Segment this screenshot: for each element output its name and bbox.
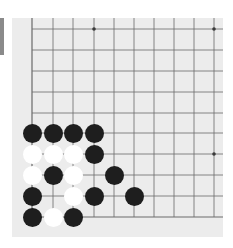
black-stone[interactable] bbox=[64, 208, 83, 227]
black-stone[interactable] bbox=[64, 124, 83, 143]
black-stone[interactable] bbox=[85, 145, 104, 164]
black-stone[interactable] bbox=[23, 124, 42, 143]
black-stone[interactable] bbox=[85, 187, 104, 206]
black-stone[interactable] bbox=[23, 208, 42, 227]
star-point-icon bbox=[212, 27, 216, 31]
black-stone[interactable] bbox=[105, 166, 124, 185]
white-stone[interactable] bbox=[44, 145, 63, 164]
star-point-icon bbox=[92, 27, 96, 31]
black-stone[interactable] bbox=[23, 187, 42, 206]
white-stone[interactable] bbox=[64, 187, 83, 206]
white-stone[interactable] bbox=[23, 145, 42, 164]
white-stone[interactable] bbox=[23, 166, 42, 185]
black-stone[interactable] bbox=[125, 187, 144, 206]
white-stone[interactable] bbox=[64, 166, 83, 185]
black-stone[interactable] bbox=[44, 124, 63, 143]
black-stone[interactable] bbox=[85, 124, 104, 143]
black-stone[interactable] bbox=[44, 166, 63, 185]
star-point-icon bbox=[212, 152, 216, 156]
white-stone[interactable] bbox=[44, 208, 63, 227]
white-stone[interactable] bbox=[64, 145, 83, 164]
